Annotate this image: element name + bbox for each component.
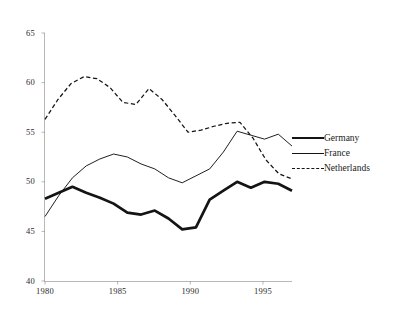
axis-group: [42, 33, 293, 285]
y-tick-label: 55: [13, 128, 35, 137]
dashed-line-icon: [292, 164, 324, 174]
y-tick-label: 60: [13, 78, 35, 87]
legend-item-netherlands[interactable]: Netherlands: [292, 161, 392, 176]
legend-label-france: France: [324, 149, 350, 159]
line-chart: 404550556065 1980198519901995 Germany Fr…: [0, 0, 397, 322]
legend-item-germany[interactable]: Germany: [292, 131, 392, 146]
series-line-germany: [45, 182, 292, 230]
y-tick-label: 45: [13, 227, 35, 236]
thin-solid-line-icon: [292, 149, 324, 159]
chart-legend: Germany France Netherlands: [292, 131, 392, 176]
thick-solid-line-icon: [292, 134, 324, 144]
y-tick-label: 65: [13, 29, 35, 38]
series-line-france: [45, 131, 292, 216]
x-tick-label: 1990: [173, 287, 207, 296]
legend-label-netherlands: Netherlands: [324, 164, 370, 174]
series-line-netherlands: [45, 77, 292, 179]
x-tick-label: 1995: [246, 287, 280, 296]
legend-item-france[interactable]: France: [292, 146, 392, 161]
y-tick-label: 50: [13, 177, 35, 186]
data-series-group: [45, 77, 292, 230]
x-tick-label: 1985: [101, 287, 135, 296]
x-tick-label: 1980: [28, 287, 62, 296]
y-tick-label: 40: [13, 277, 35, 286]
legend-label-germany: Germany: [324, 134, 359, 144]
